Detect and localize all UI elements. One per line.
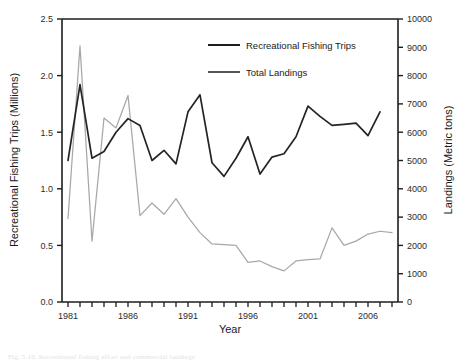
y-axis-left-ticks: 0.00.51.01.52.02.5 xyxy=(40,14,62,307)
x-tick-label: 1986 xyxy=(118,311,138,321)
x-tick-label: 2006 xyxy=(358,311,378,321)
x-axis-ticks: 198119861991199620012006 xyxy=(58,302,392,321)
y-left-tick-label: 2.5 xyxy=(40,14,53,24)
y-right-tick-label: 9000 xyxy=(407,43,427,53)
y-axis-left-title: Recreational Fishing Trips (Millions) xyxy=(8,73,20,247)
series-line-total-landings xyxy=(68,46,392,271)
y-right-tick-label: 3000 xyxy=(407,212,427,222)
y-left-tick-label: 2.0 xyxy=(40,71,53,81)
legend-label-total-landings: Total Landings xyxy=(246,67,308,78)
legend-label-recreational-fishing-trips: Recreational Fishing Trips xyxy=(246,40,356,51)
y-axis-right-ticks: 0100020003000400050006000700080009000100… xyxy=(398,14,432,307)
y-right-tick-label: 7000 xyxy=(407,99,427,109)
series-line-recreational-fishing-trips xyxy=(68,85,380,177)
y-left-tick-label: 1.0 xyxy=(40,184,53,194)
y-left-tick-label: 0.5 xyxy=(40,241,53,251)
y-axis-right-title: Landings (Metric tons) xyxy=(442,106,454,215)
y-left-tick-label: 1.5 xyxy=(40,128,53,138)
y-right-tick-label: 10000 xyxy=(407,14,432,24)
figure-caption: Fig. 5.10. Recreational fishing effort a… xyxy=(8,353,428,360)
x-tick-label: 1996 xyxy=(238,311,258,321)
x-axis-title: Year xyxy=(219,323,242,335)
y-right-tick-label: 0 xyxy=(407,297,412,307)
y-right-tick-label: 5000 xyxy=(407,156,427,166)
plot-frame xyxy=(62,19,398,302)
y-right-tick-label: 2000 xyxy=(407,241,427,251)
y-left-tick-label: 0.0 xyxy=(40,297,53,307)
y-right-tick-label: 8000 xyxy=(407,71,427,81)
x-tick-label: 1991 xyxy=(178,311,198,321)
chart-legend: Recreational Fishing Trips Total Landing… xyxy=(208,40,356,78)
y-right-tick-label: 1000 xyxy=(407,269,427,279)
x-tick-label: 2001 xyxy=(298,311,318,321)
dual-axis-line-chart: 0.00.51.01.52.02.5 010002000300040005000… xyxy=(0,0,469,340)
y-right-tick-label: 4000 xyxy=(407,184,427,194)
y-right-tick-label: 6000 xyxy=(407,128,427,138)
x-tick-label: 1981 xyxy=(58,311,78,321)
figure-container: 0.00.51.01.52.02.5 010002000300040005000… xyxy=(0,0,469,360)
